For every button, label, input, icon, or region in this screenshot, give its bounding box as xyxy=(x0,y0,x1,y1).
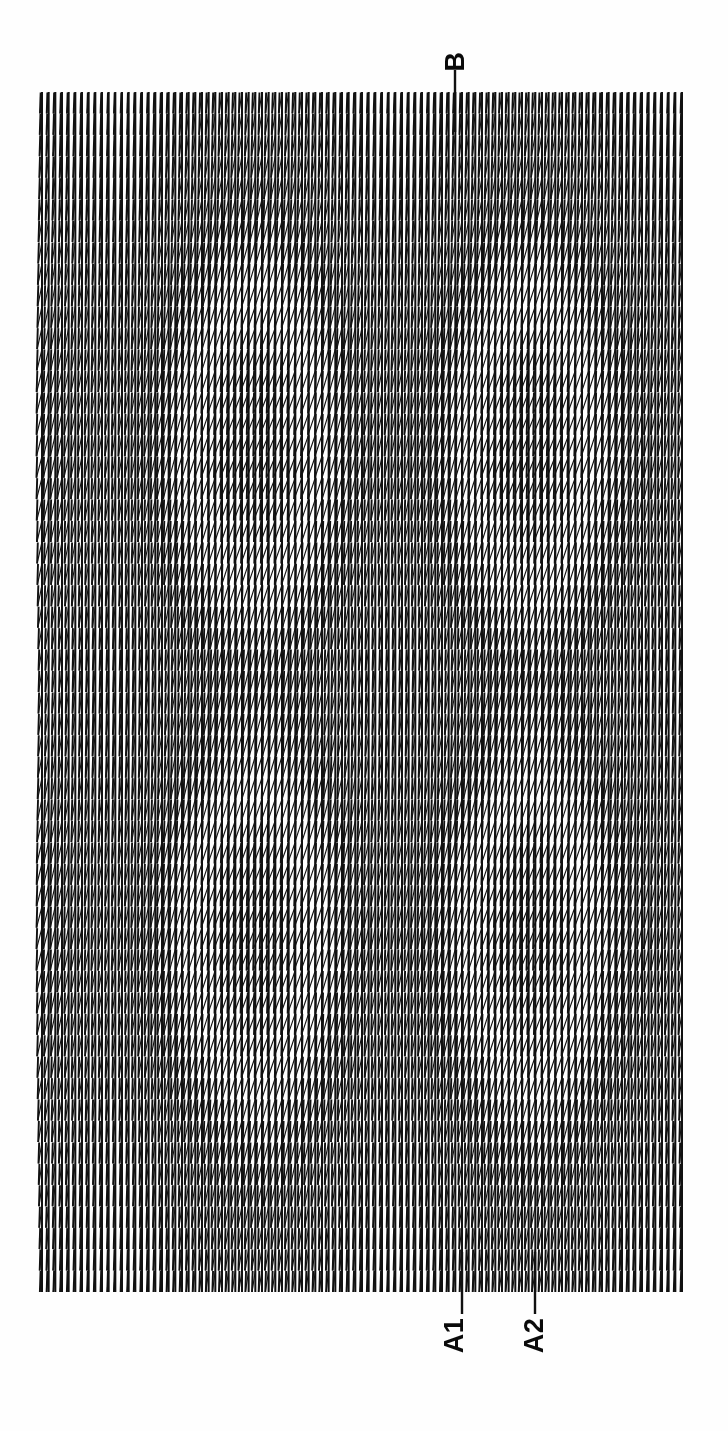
marker-label-a1: A1 xyxy=(430,1322,480,1362)
marker-label-b: B xyxy=(432,48,478,82)
marker-label-a2: A2 xyxy=(510,1322,560,1362)
marker-label-a1-text: A1 xyxy=(441,1318,468,1354)
chart-recorder-figure: B A1 A2 xyxy=(0,0,728,1431)
marker-label-b-text: B xyxy=(442,52,469,72)
strip-chart-trace xyxy=(0,0,728,1431)
marker-label-a2-text: A2 xyxy=(521,1318,548,1354)
